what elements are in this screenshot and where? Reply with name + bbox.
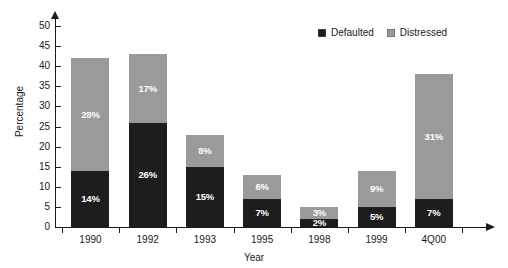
legend-swatch-defaulted-icon: [318, 29, 326, 37]
x-category-label: 1992: [118, 234, 178, 245]
bar-segment-distressed[interactable]: 17%: [129, 54, 167, 122]
bar-stack[interactable]: 15%8%: [186, 135, 224, 227]
x-category-label: 1993: [175, 234, 235, 245]
bar-value-label-defaulted: 7%: [255, 208, 268, 218]
y-tick-label-text: 40: [28, 61, 50, 71]
bar-value-label-distressed: 31%: [425, 132, 443, 142]
y-tick-label: 25: [22, 122, 50, 132]
x-tick: [62, 228, 63, 233]
legend-item-distressed: Distressed: [387, 28, 447, 38]
bar-segment-defaulted[interactable]: 14%: [71, 171, 109, 227]
y-tick-label-text: 5: [28, 202, 50, 212]
y-tick-label-text: 35: [28, 81, 50, 91]
bar-segment-distressed[interactable]: 31%: [415, 74, 453, 199]
bar-value-label-distressed: 6%: [255, 182, 268, 192]
x-tick: [234, 228, 235, 233]
y-tick-label-text: 50: [28, 21, 50, 31]
y-tick-label-text: 0: [28, 222, 50, 232]
legend-item-defaulted: Defaulted: [318, 28, 374, 38]
y-tick-label: 15: [22, 162, 50, 172]
bar-segment-distressed[interactable]: 8%: [186, 135, 224, 167]
x-axis-arrow-icon: [486, 223, 495, 231]
stacked-bar-chart: Percentage 05101520253035404550 Year 199…: [0, 0, 508, 268]
legend-label-distressed: Distressed: [400, 28, 447, 38]
y-tick-label: 30: [22, 101, 50, 111]
bar-value-label-defaulted: 14%: [81, 194, 99, 204]
bar-segment-defaulted[interactable]: 5%: [358, 207, 396, 227]
y-tick-label: 0: [22, 222, 50, 232]
bar-value-label-defaulted: 7%: [427, 208, 440, 218]
bar-stack[interactable]: 14%28%: [71, 58, 109, 227]
x-category-label: 1999: [347, 234, 407, 245]
y-tick-label-text: 20: [28, 142, 50, 152]
bar-value-label-distressed: 8%: [198, 146, 211, 156]
bar-value-label-defaulted: 15%: [196, 192, 214, 202]
bar-value-label-distressed: 28%: [81, 110, 99, 120]
y-tick-label-text: 45: [28, 41, 50, 51]
x-category-label: 1998: [289, 234, 349, 245]
y-tick-label-text: 30: [28, 101, 50, 111]
y-tick-label: 45: [22, 41, 50, 51]
bar-segment-distressed[interactable]: 9%: [358, 171, 396, 207]
bar-segment-defaulted[interactable]: 7%: [243, 199, 281, 227]
bar-value-label-distressed: 17%: [138, 84, 156, 94]
y-tick-label-text: 10: [28, 182, 50, 192]
y-tick-label: 5: [22, 202, 50, 212]
bar-stack[interactable]: 2%3%: [300, 207, 338, 227]
bar-value-label-distressed: 3%: [313, 208, 326, 218]
chart-legend: Defaulted Distressed: [318, 28, 447, 38]
x-tick: [176, 228, 177, 233]
bar-segment-distressed[interactable]: 3%: [300, 207, 338, 219]
bar-stack[interactable]: 7%31%: [415, 74, 453, 227]
plot-area: 14%28%26%17%15%8%7%6%2%3%5%9%7%31%: [55, 18, 487, 227]
x-tick: [462, 228, 463, 233]
bar-value-label-defaulted: 5%: [370, 212, 383, 222]
x-category-label: 4Q00: [404, 234, 464, 245]
bar-segment-distressed[interactable]: 6%: [243, 175, 281, 199]
x-category-label: 1995: [232, 234, 292, 245]
x-tick: [405, 228, 406, 233]
x-tick: [119, 228, 120, 233]
bar-stack[interactable]: 26%17%: [129, 54, 167, 227]
bar-value-label-distressed: 9%: [370, 184, 383, 194]
bar-segment-defaulted[interactable]: 15%: [186, 167, 224, 227]
y-tick-label: 40: [22, 61, 50, 71]
bar-value-label-defaulted: 26%: [138, 170, 156, 180]
y-tick-label-text: 15: [28, 162, 50, 172]
legend-swatch-distressed-icon: [387, 29, 395, 37]
legend-label-defaulted: Defaulted: [331, 28, 374, 38]
y-tick-label-text: 25: [28, 122, 50, 132]
bar-stack[interactable]: 7%6%: [243, 175, 281, 227]
y-tick-label: 50: [22, 21, 50, 31]
bar-value-label-defaulted: 2%: [313, 218, 326, 228]
y-tick-label: 10: [22, 182, 50, 192]
x-tick: [348, 228, 349, 233]
y-tick-label: 20: [22, 142, 50, 152]
x-category-label: 1990: [60, 234, 120, 245]
x-axis-title: Year: [0, 252, 508, 263]
bar-stack[interactable]: 5%9%: [358, 171, 396, 227]
y-tick-label: 35: [22, 81, 50, 91]
bar-segment-defaulted[interactable]: 2%: [300, 219, 338, 227]
bar-segment-distressed[interactable]: 28%: [71, 58, 109, 171]
bar-segment-defaulted[interactable]: 26%: [129, 123, 167, 228]
x-tick: [291, 228, 292, 233]
bar-segment-defaulted[interactable]: 7%: [415, 199, 453, 227]
